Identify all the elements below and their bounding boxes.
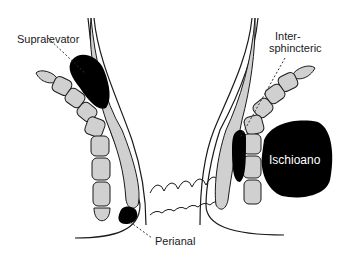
mucosa-lower xyxy=(150,201,222,215)
perianal-leader xyxy=(130,222,152,238)
label-perianal: Perianal xyxy=(155,235,195,247)
label-supralevator: Supralevator xyxy=(17,33,79,45)
label-intersphincteric-line1: Inter- xyxy=(275,30,301,42)
label-ischioanal: Ischioano xyxy=(269,154,320,166)
label-intersphincteric-line2: sphincteric xyxy=(269,42,322,54)
mucosa-upper xyxy=(150,177,220,193)
intersphincteric-abscess xyxy=(232,130,246,182)
